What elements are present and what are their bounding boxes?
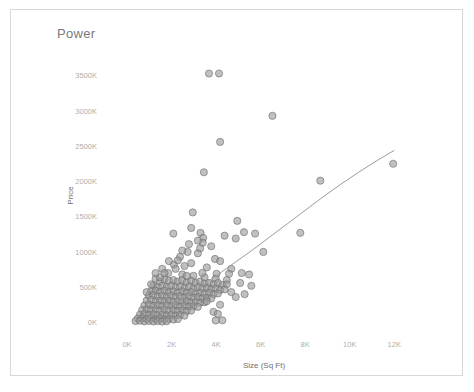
data-point[interactable] bbox=[170, 230, 177, 237]
y-axis-ticks: 0K500K1000K1500K2000K2500K3000K3500K bbox=[75, 71, 97, 327]
y-tick-label: 2000K bbox=[75, 177, 97, 186]
data-point[interactable] bbox=[217, 301, 224, 308]
y-axis-title: Price bbox=[66, 186, 75, 205]
data-point[interactable] bbox=[174, 257, 181, 264]
data-point[interactable] bbox=[205, 70, 212, 77]
y-tick-label: 0K bbox=[88, 318, 97, 327]
data-point[interactable] bbox=[217, 257, 224, 264]
data-point[interactable] bbox=[238, 269, 245, 276]
x-tick-label: 10K bbox=[343, 340, 356, 349]
data-point[interactable] bbox=[214, 290, 221, 297]
data-point[interactable] bbox=[183, 272, 190, 279]
scatter-plot[interactable]: 0K500K1000K1500K2000K2500K3000K3500K 0K2… bbox=[11, 10, 463, 376]
data-point[interactable] bbox=[143, 289, 150, 296]
data-point[interactable] bbox=[203, 298, 210, 305]
y-tick-label: 500K bbox=[79, 283, 97, 292]
data-point[interactable] bbox=[232, 235, 239, 242]
data-point[interactable] bbox=[174, 315, 181, 322]
y-tick-label: 3000K bbox=[75, 107, 97, 116]
data-point[interactable] bbox=[147, 281, 154, 288]
data-point[interactable] bbox=[188, 307, 195, 314]
data-point[interactable] bbox=[219, 317, 226, 324]
data-point[interactable] bbox=[189, 209, 196, 216]
x-tick-label: 4K bbox=[212, 340, 221, 349]
data-point[interactable] bbox=[234, 217, 241, 224]
data-point[interactable] bbox=[188, 260, 195, 267]
y-tick-label: 1500K bbox=[75, 212, 97, 221]
data-point[interactable] bbox=[194, 250, 201, 257]
data-point[interactable] bbox=[185, 241, 192, 248]
data-point[interactable] bbox=[232, 293, 239, 300]
data-point[interactable] bbox=[194, 237, 201, 244]
data-point[interactable] bbox=[217, 138, 224, 145]
data-point[interactable] bbox=[317, 177, 324, 184]
data-point[interactable] bbox=[269, 112, 276, 119]
data-point[interactable] bbox=[199, 269, 206, 276]
y-tick-label: 1000K bbox=[75, 248, 97, 257]
x-axis-ticks: 0K2K4K6K8K10K12K bbox=[122, 340, 401, 349]
data-point[interactable] bbox=[225, 270, 232, 277]
data-point[interactable] bbox=[181, 312, 188, 319]
x-tick-label: 6K bbox=[256, 340, 265, 349]
data-point[interactable] bbox=[245, 271, 252, 278]
data-point[interactable] bbox=[161, 269, 168, 276]
data-point[interactable] bbox=[248, 282, 255, 289]
data-point[interactable] bbox=[179, 247, 186, 254]
data-point[interactable] bbox=[214, 310, 221, 317]
y-tick-label: 3500K bbox=[75, 71, 97, 80]
x-tick-label: 12K bbox=[388, 340, 401, 349]
data-point[interactable] bbox=[152, 269, 159, 276]
data-point[interactable] bbox=[251, 230, 258, 237]
chart-frame: Power 0K500K1000K1500K2000K2500K3000K350… bbox=[10, 9, 463, 376]
data-point[interactable] bbox=[240, 229, 247, 236]
data-point[interactable] bbox=[208, 243, 215, 250]
data-point[interactable] bbox=[241, 291, 248, 298]
x-tick-label: 2K bbox=[167, 340, 176, 349]
plot-svg: 0K500K1000K1500K2000K2500K3000K3500K 0K2… bbox=[11, 10, 463, 376]
data-point[interactable] bbox=[181, 262, 188, 269]
data-point[interactable] bbox=[260, 248, 267, 255]
data-point[interactable] bbox=[221, 286, 228, 293]
data-point[interactable] bbox=[237, 279, 244, 286]
data-point[interactable] bbox=[215, 70, 222, 77]
data-point[interactable] bbox=[188, 224, 195, 231]
data-point[interactable] bbox=[172, 265, 179, 272]
data-point[interactable] bbox=[165, 257, 172, 264]
data-point[interactable] bbox=[221, 232, 228, 239]
x-tick-label: 0K bbox=[122, 340, 131, 349]
x-axis-title: Size (Sq Ft) bbox=[243, 361, 286, 370]
data-point[interactable] bbox=[200, 169, 207, 176]
x-tick-label: 8K bbox=[301, 340, 310, 349]
data-point[interactable] bbox=[163, 318, 170, 325]
data-point[interactable] bbox=[194, 303, 201, 310]
data-point[interactable] bbox=[297, 229, 304, 236]
y-tick-label: 2500K bbox=[75, 142, 97, 151]
data-point[interactable] bbox=[390, 160, 397, 167]
data-points-layer[interactable] bbox=[132, 70, 397, 325]
